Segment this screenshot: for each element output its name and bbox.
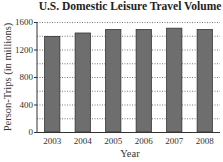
y-tick-label: 0 <box>29 127 34 137</box>
bar-2004 <box>75 33 90 132</box>
y-tick-label: 1600 <box>15 17 34 27</box>
gridlines <box>37 23 220 119</box>
bar-2007 <box>167 28 182 132</box>
bar-2005 <box>106 30 121 132</box>
x-tick-label: 2003 <box>43 136 62 146</box>
y-axis-label: Person-Trips (in millions) <box>2 22 14 131</box>
bar-2006 <box>136 30 151 132</box>
y-tick-label: 1200 <box>15 45 34 55</box>
y-tick-label: 800 <box>20 72 34 82</box>
chart-title: U.S. Domestic Leisure Travel Volume <box>39 0 222 12</box>
y-tick-label: 400 <box>20 100 34 110</box>
x-tick-label: 2006 <box>135 136 154 146</box>
x-tick-label: 2008 <box>196 136 215 146</box>
x-axis-label: Year <box>120 148 140 159</box>
bars <box>45 28 213 132</box>
y-tick-labels: 040080012001600 <box>15 17 34 137</box>
bar-2008 <box>197 30 212 132</box>
x-tick-label: 2004 <box>74 136 93 146</box>
x-tick-labels: 200320042005200620072008 <box>43 136 214 146</box>
x-tick-label: 2007 <box>165 136 184 146</box>
x-tick-label: 2005 <box>104 136 123 146</box>
bar-2003 <box>45 36 60 132</box>
bar-chart: U.S. Domestic Leisure Travel Volume 0400… <box>0 0 223 162</box>
